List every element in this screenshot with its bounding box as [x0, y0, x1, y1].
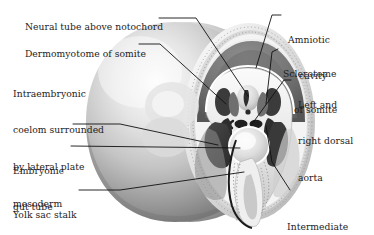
label-neural-tube-line1: Neural tube above notochord [25, 21, 163, 32]
label-intraembryonic-coelom-line2: coelom surrounded [13, 124, 104, 136]
label-dorsal-aorta-line2: right dorsal [298, 135, 353, 147]
label-embryonic-gut-tube-line1: Embryonic [13, 165, 64, 177]
label-dorsal-aorta: Left and right dorsal aorta [298, 74, 353, 209]
label-intermediate-mesoderm-line1: Intermediate [287, 221, 348, 233]
label-yolk-sac-stalk-line1: Yolk sac stalk [13, 209, 91, 221]
notochord [245, 109, 250, 114]
label-dorsal-aorta-line1: Left and [298, 99, 353, 111]
label-dermomyotome-line1: Dermomyotome of somite [25, 48, 146, 59]
gut-tube-highlight [234, 132, 256, 150]
label-intraembryonic-coelom-line1: Intraembryonic [13, 88, 104, 100]
coelom-lobe-highlight [152, 91, 184, 117]
embryo-cross-section-figure: Neural tube above notochord Dermomyotome… [0, 0, 374, 235]
label-intermediate-mesoderm: Intermediate mesoderm [287, 196, 348, 235]
label-yolk-sac-stalk: Yolk sac stalk compressed into umbilical… [13, 184, 91, 235]
label-dorsal-aorta-line3: aorta [298, 172, 353, 184]
